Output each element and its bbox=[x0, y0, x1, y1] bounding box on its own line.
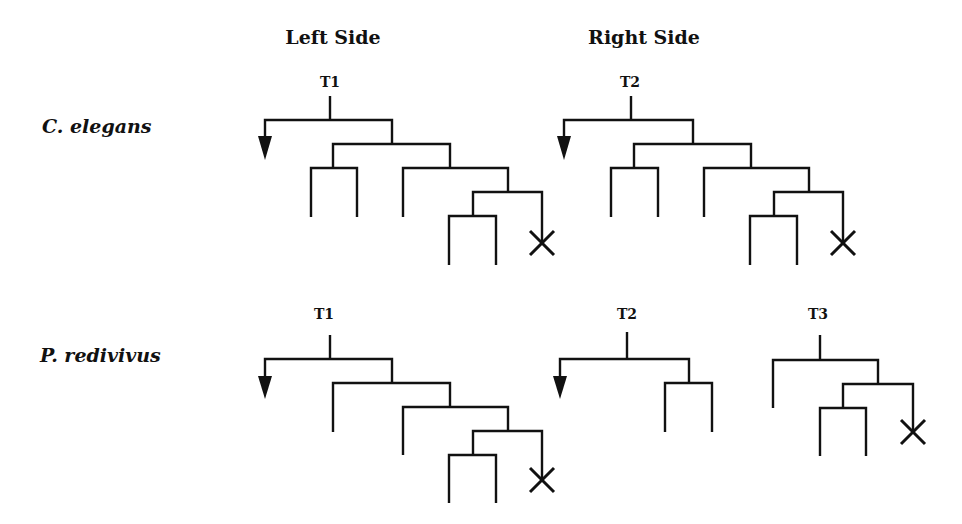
tree-p-redivivus-t1 bbox=[258, 335, 554, 503]
arrow-down-icon bbox=[258, 136, 272, 160]
arrow-down-icon bbox=[553, 376, 567, 399]
tree-c-elegans-t2 bbox=[557, 96, 855, 265]
arrow-down-icon bbox=[557, 136, 571, 160]
tree-p-redivivus-t2 bbox=[553, 332, 712, 432]
arrow-down-icon bbox=[258, 376, 272, 399]
lineage-diagram bbox=[0, 0, 962, 524]
tree-p-redivivus-t3 bbox=[773, 335, 925, 456]
tree-c-elegans-t1 bbox=[258, 96, 554, 265]
